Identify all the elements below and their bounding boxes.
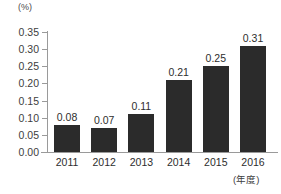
y-axis-tick-label-wrap: 0.35 <box>0 26 39 38</box>
y-axis-tick-label: 0.00 <box>1 146 39 158</box>
y-axis-tick-label: 0.35 <box>1 26 39 38</box>
y-axis-tick-label: 0.10 <box>1 112 39 124</box>
y-axis-tick-label-wrap: 0.15 <box>0 95 39 107</box>
y-axis-tick-label: 0.25 <box>1 60 39 72</box>
bar-group: 0.31 <box>231 32 275 152</box>
bar[interactable] <box>240 46 266 152</box>
bar[interactable] <box>54 125 80 152</box>
y-axis-tick-label: 0.20 <box>1 77 39 89</box>
y-axis-tick-label: 0.30 <box>1 43 39 55</box>
y-axis-tick-label-wrap: 0.25 <box>0 60 39 72</box>
x-axis-unit-label: (年度) <box>233 172 259 186</box>
y-axis-tick-label-wrap: 0.05 <box>0 129 39 141</box>
y-axis-tick-label: 0.05 <box>1 129 39 141</box>
bar[interactable] <box>166 80 192 152</box>
y-axis-tick-label-wrap: 0.10 <box>0 112 39 124</box>
y-axis-tick-label-wrap: 0.20 <box>0 77 39 89</box>
x-axis-tick-label: 2016 <box>231 156 275 168</box>
bar-value-label: 0.31 <box>231 32 275 44</box>
y-axis-tick-label-wrap: 0.30 <box>0 43 39 55</box>
bar[interactable] <box>203 66 229 152</box>
y-axis-tick-mark <box>42 152 47 153</box>
y-axis-tick-label: 0.15 <box>1 95 39 107</box>
y-axis-tick-label-wrap: 0.00 <box>0 146 39 158</box>
bar[interactable] <box>128 114 154 152</box>
y-axis-unit-label: (%) <box>18 2 32 12</box>
bar-chart: (%) 0.350.300.250.200.150.100.050.00 0.0… <box>0 0 281 194</box>
x-axis-line <box>41 152 278 153</box>
bar[interactable] <box>91 128 117 152</box>
